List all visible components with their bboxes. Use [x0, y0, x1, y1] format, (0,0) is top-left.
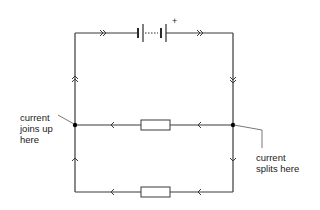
label-current-joins-up-here: current joins up here [20, 112, 53, 145]
battery-plus-sign: + [172, 16, 177, 26]
label-splits-line-1: current [256, 152, 299, 163]
label-joins-line-2: joins up [20, 123, 53, 134]
label-splits-line-2: splits here [256, 163, 299, 174]
label-joins-line-3: here [20, 134, 53, 145]
label-joins-line-1: current [20, 112, 53, 123]
leader-line-joins [58, 115, 74, 124]
resistor-middle [141, 120, 170, 130]
leader-line-splits [234, 125, 262, 148]
resistor-bottom [141, 187, 170, 197]
label-current-splits-here: current splits here [256, 152, 299, 174]
battery [138, 24, 166, 42]
circuit-diagram: + [0, 0, 320, 210]
